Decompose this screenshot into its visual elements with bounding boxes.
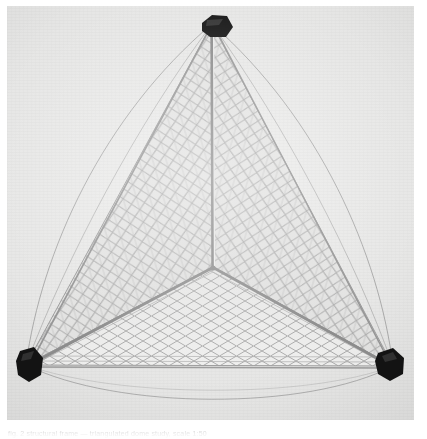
arc-base-inner bbox=[26, 365, 393, 390]
strut-base-left-to-right bbox=[29, 367, 392, 368]
arc-base bbox=[26, 365, 393, 399]
figure-caption: fig. 2 structural frame — triangulated d… bbox=[8, 428, 308, 439]
figure-page: fig. 2 structural frame — triangulated d… bbox=[0, 0, 427, 439]
node-apex bbox=[202, 15, 233, 37]
strut-apex-to-center bbox=[212, 26, 213, 268]
tetrahedral-frame-figure bbox=[7, 6, 414, 420]
photographic-plate bbox=[7, 6, 414, 420]
node-bottom-right bbox=[375, 348, 404, 381]
node-center-joint bbox=[210, 265, 215, 270]
